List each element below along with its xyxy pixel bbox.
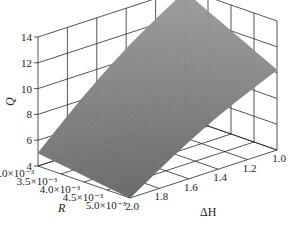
dh-axis-label: ΔH [200,205,217,219]
q-tick-label: 14 [21,31,33,43]
q-axis-label: Q [3,97,17,106]
surface-plot: 4681012143.0×10⁻³3.5×10⁻³4.0×10⁻³4.5×10⁻… [0,0,297,233]
r-axis-label: R [57,201,66,215]
dh-tick-label: 1.0 [272,152,286,164]
dh-tick-label: 1.6 [184,181,198,193]
dh-tick-label: 1.2 [243,162,257,174]
q-tick-label: 12 [21,57,32,69]
surface [38,0,277,198]
r-tick-label: 5.0×10⁻³ [86,199,127,211]
dh-tick-label: 1.8 [155,190,169,202]
dh-tick-label: 1.4 [213,171,227,183]
dh-tick-label: 2.0 [125,200,139,212]
q-tick-label: 8 [27,108,33,120]
q-tick-label: 10 [21,83,33,95]
q-tick-label: 6 [27,134,33,146]
